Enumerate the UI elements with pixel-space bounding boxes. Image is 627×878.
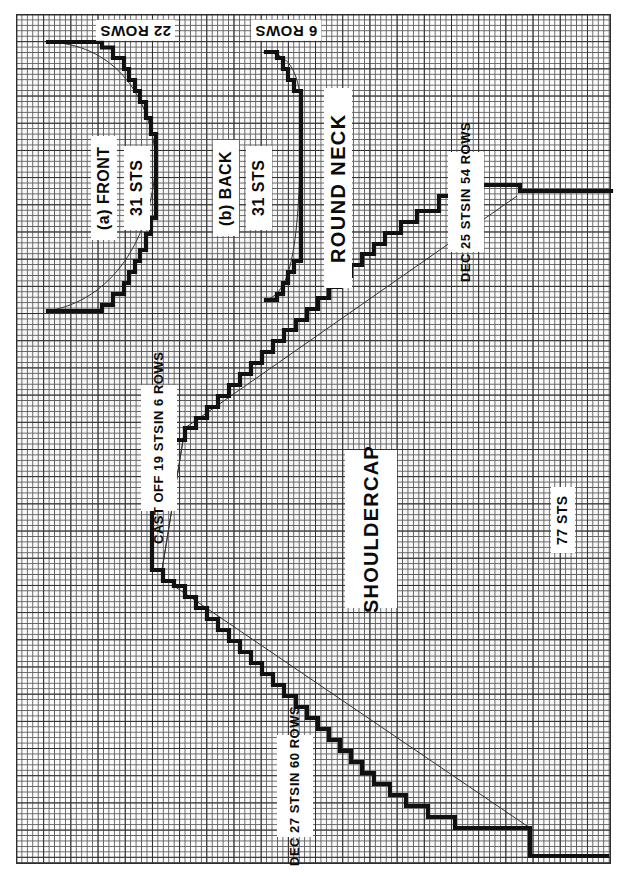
- label-6-rows: 6 ROWS: [251, 20, 321, 41]
- label-back-stitches: 31 STS: [246, 146, 272, 230]
- label-dec-25-line2: IN 54 ROWS: [459, 122, 474, 202]
- label-front-stitches: 31 STS: [124, 146, 150, 230]
- label-dec-25-line1: DEC 25 STS: [459, 202, 474, 281]
- label-shoulder-cap-line2: CAP: [359, 445, 384, 491]
- pattern-drawing: [0, 0, 627, 878]
- lower-slope-stepped-line: [174, 586, 607, 856]
- lower-slope-guide-line: [174, 586, 530, 828]
- label-22-rows: 22 ROWS: [96, 20, 175, 41]
- label-front: (a) FRONT: [91, 136, 117, 240]
- label-shoulder-cap: SHOULDER CAP: [345, 450, 397, 608]
- label-back: (b) BACK: [213, 140, 239, 236]
- label-shoulder-cap-line1: SHOULDER: [359, 491, 384, 613]
- label-cast-off-line2: IN 6 ROWS: [152, 352, 167, 424]
- label-dec-27-line1: DEC 27 STS: [288, 786, 303, 865]
- label-dec-27-sts: DEC 27 STS IN 60 ROWS: [277, 735, 313, 837]
- label-dec-27-line2: IN 60 ROWS: [288, 706, 303, 786]
- label-round-neck: ROUND NECK: [324, 88, 352, 288]
- label-dec-25-sts: DEC 25 STS IN 54 ROWS: [448, 152, 484, 252]
- label-77-sts: 77 STS: [551, 487, 575, 553]
- label-cast-off-line1: CAST OFF 19 STS: [152, 424, 167, 543]
- label-cast-off-19-sts: CAST OFF 19 STS IN 6 ROWS: [141, 385, 177, 511]
- chart-page: 22 ROWS 6 ROWS (a) FRONT 31 STS (b) BACK…: [0, 0, 627, 878]
